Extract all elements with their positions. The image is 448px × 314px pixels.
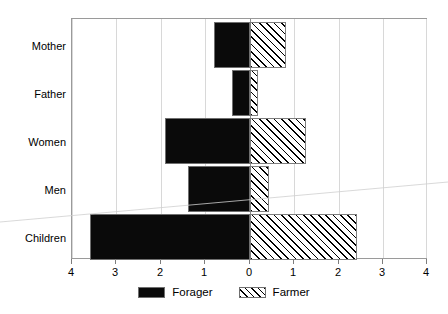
bar-forager-children: [90, 214, 250, 260]
legend-entry-farmer: Farmer: [239, 286, 310, 298]
x-tick-7: [382, 259, 383, 264]
x-axis-ticks: [71, 259, 427, 265]
chart-legend: Forager Farmer: [0, 284, 448, 300]
y-axis-label-father: Father: [0, 89, 66, 100]
gridline-right-4: [426, 19, 427, 258]
x-tick-0: [71, 259, 72, 264]
plot-area: [71, 18, 427, 259]
x-tick-label-7: 3: [372, 266, 392, 278]
bar-row-mother: [72, 22, 426, 68]
bar-forager-mother: [214, 22, 250, 68]
y-axis-label-children: Children: [0, 233, 66, 244]
legend-entry-forager: Forager: [138, 286, 212, 298]
bar-row-children: [72, 214, 426, 260]
x-tick-2: [160, 259, 161, 264]
y-axis-label-women: Women: [0, 137, 66, 148]
x-tick-6: [338, 259, 339, 264]
bar-farmer-children: [250, 214, 357, 260]
y-axis-label-mother: Mother: [0, 41, 66, 52]
x-tick-label-2: 2: [150, 266, 170, 278]
solid-black-swatch-icon: [138, 287, 165, 298]
bar-farmer-women: [250, 118, 306, 164]
x-tick-label-0: 4: [61, 266, 81, 278]
bar-forager-women: [165, 118, 250, 164]
y-axis-label-men: Men: [0, 185, 66, 196]
bar-forager-men: [188, 166, 250, 212]
x-tick-label-3: 1: [194, 266, 214, 278]
bar-farmer-mother: [250, 22, 286, 68]
legend-label-farmer: Farmer: [273, 286, 310, 298]
x-axis-tick-labels: 4 3 2 1 0 1 2 3 4: [0, 266, 448, 280]
bar-chart: Mother Father Women Men Children: [0, 0, 448, 314]
x-tick-label-1: 3: [105, 266, 125, 278]
y-axis-labels: Mother Father Women Men Children: [0, 18, 66, 259]
bar-farmer-men: [250, 166, 269, 212]
x-tick-label-5: 1: [283, 266, 303, 278]
x-tick-8: [426, 259, 427, 264]
bar-forager-father: [232, 70, 250, 116]
x-tick-label-8: 4: [416, 266, 436, 278]
x-tick-3: [204, 259, 205, 264]
x-tick-label-6: 2: [328, 266, 348, 278]
x-tick-5: [293, 259, 294, 264]
bar-row-women: [72, 118, 426, 164]
x-tick-4: [249, 259, 250, 264]
x-tick-label-4: 0: [239, 266, 259, 278]
legend-label-forager: Forager: [172, 286, 212, 298]
diagonal-hatch-swatch-icon: [239, 287, 266, 298]
bar-row-men: [72, 166, 426, 212]
x-tick-1: [115, 259, 116, 264]
bar-row-father: [72, 70, 426, 116]
bar-farmer-father: [250, 70, 258, 116]
